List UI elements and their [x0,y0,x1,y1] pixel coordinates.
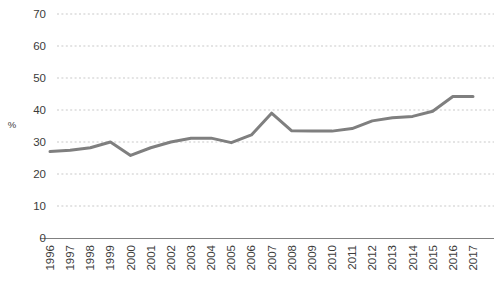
y-axis-tick-label: 40 [33,104,46,116]
line-chart: 010203040506070 199619971998199920002001… [0,0,501,286]
y-axis-tick-label: 10 [33,200,46,212]
x-axis-tick-label: 1996 [44,245,56,271]
x-axis-tick-label: 2007 [266,245,278,271]
x-axis-tick-label: 2002 [165,245,177,271]
x-axis-tick-label: 2005 [225,245,237,271]
x-axis-tick-label: 2001 [145,245,157,271]
x-axis-tick-label: 2008 [286,245,298,271]
x-axis-tick-label: 2003 [185,245,197,271]
x-axis-tick-label: 2014 [407,244,419,270]
chart-container: 010203040506070 199619971998199920002001… [0,0,501,286]
x-axis-tick-label: 1997 [64,245,76,271]
y-axis-tick-label: 60 [33,40,46,52]
x-axis-tick-label: 2013 [386,245,398,271]
x-axis-tick-label: 1999 [104,245,116,271]
y-axis-tick-label: 70 [33,8,46,20]
x-axis-tick-label: 2010 [326,245,338,271]
y-axis-tick-label: 30 [33,136,46,148]
x-axis-tick-label: 2012 [366,245,378,271]
chart-background [0,0,501,286]
x-axis-tick-label: 2016 [447,245,459,271]
y-axis-title: % [8,119,17,130]
x-axis-tick-label: 2006 [245,245,257,271]
y-axis-tick-label: 20 [33,168,46,180]
x-axis-tick-label: 2017 [467,245,479,271]
x-axis-tick-label: 2015 [427,245,439,271]
x-axis-tick-label: 2004 [205,244,217,270]
y-axis-tick-label: 0 [40,232,46,244]
x-axis-tick-label: 2009 [306,245,318,271]
y-axis-tick-label: 50 [33,72,46,84]
x-axis-tick-label: 2000 [125,245,137,271]
x-axis-tick-label: 2011 [346,245,358,270]
x-axis-tick-label: 1998 [84,245,96,271]
